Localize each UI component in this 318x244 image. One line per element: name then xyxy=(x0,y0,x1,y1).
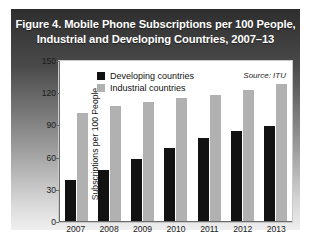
bar xyxy=(243,90,254,221)
legend-swatch-icon xyxy=(97,72,105,80)
bar-group xyxy=(60,61,93,221)
legend-label: Developing countries xyxy=(110,71,194,81)
legend-item-developing: Developing countries xyxy=(97,70,194,82)
y-tick-mark xyxy=(56,61,59,62)
bar xyxy=(110,106,121,221)
y-tick-label: 120 xyxy=(42,88,56,98)
y-tick-label: 30 xyxy=(46,185,56,195)
x-tick-label: 2009 xyxy=(126,224,159,234)
bar xyxy=(77,113,88,221)
y-tick-label: 150 xyxy=(42,56,56,66)
y-tick-label: 0 xyxy=(51,217,56,227)
x-tick-label: 2012 xyxy=(226,224,259,234)
bar-group xyxy=(226,61,259,221)
bar xyxy=(65,180,76,221)
y-tick-label: 60 xyxy=(46,153,56,163)
y-tick-label: 90 xyxy=(46,120,56,130)
bar xyxy=(98,170,109,221)
y-tick-mark xyxy=(56,190,59,191)
figure-title-line-1: Figure 4. Mobile Phone Subscriptions per… xyxy=(11,17,300,32)
legend-item-industrial: Industrial countries xyxy=(97,82,194,94)
chart-plot-area: Subscriptions per 100 People 03060901201… xyxy=(58,60,293,223)
chart-legend: Developing countriesIndustrial countries xyxy=(97,70,194,94)
x-tick-label: 2011 xyxy=(193,224,226,234)
legend-label: Industrial countries xyxy=(110,83,186,93)
bar xyxy=(131,159,142,221)
y-tick-mark xyxy=(56,125,59,126)
bar xyxy=(276,84,287,221)
figure-title: Figure 4. Mobile Phone Subscriptions per… xyxy=(11,17,300,46)
y-tick-mark xyxy=(56,158,59,159)
bar xyxy=(143,102,154,221)
x-tick-label: 2013 xyxy=(260,224,293,234)
y-tick-mark xyxy=(56,222,59,223)
figure-title-line-2: Industrial and Developing Countries, 200… xyxy=(11,32,300,47)
bar-group xyxy=(259,61,292,221)
bar xyxy=(231,131,242,221)
bar xyxy=(210,95,221,221)
figure-panel: Figure 4. Mobile Phone Subscriptions per… xyxy=(11,9,300,230)
y-tick-mark xyxy=(56,93,59,94)
bar xyxy=(176,98,187,221)
x-tick-label: 2008 xyxy=(92,224,125,234)
bar xyxy=(198,138,209,221)
legend-swatch-icon xyxy=(97,84,105,92)
x-tick-label: 2007 xyxy=(59,224,92,234)
source-note: Source: ITU xyxy=(243,71,286,80)
bar xyxy=(264,126,275,221)
x-tick-label: 2010 xyxy=(159,224,192,234)
x-axis-ticks: 2007200820092010201120122013 xyxy=(59,224,293,234)
bar-group xyxy=(193,61,226,221)
plot-inner: 0306090120150 Developing countriesIndust… xyxy=(59,61,292,222)
bar xyxy=(164,148,175,221)
x-axis-line xyxy=(59,221,292,222)
